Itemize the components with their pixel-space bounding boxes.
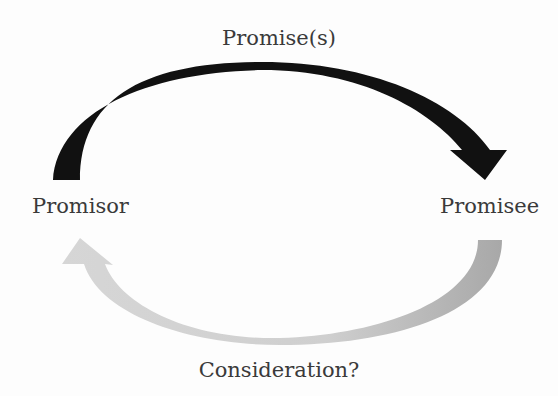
consideration-arrow <box>62 238 502 345</box>
promise-arrow <box>53 62 507 180</box>
promisee-label: Promisee <box>440 194 539 218</box>
consideration-label: Consideration? <box>0 358 558 382</box>
promise-label: Promise(s) <box>0 26 558 50</box>
promisor-label: Promisor <box>32 194 129 218</box>
